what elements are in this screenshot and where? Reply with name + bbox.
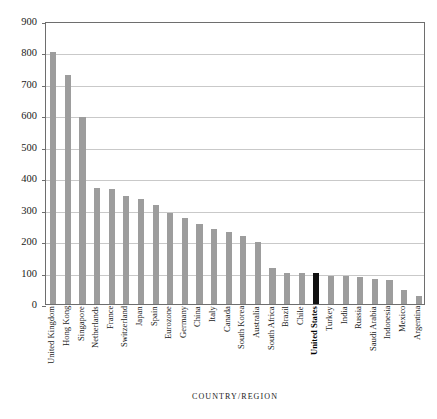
bar	[50, 52, 56, 304]
x-tick-label: Saudi Arabia	[369, 306, 378, 382]
x-tick-label: Mexico	[398, 306, 407, 382]
bar	[153, 205, 159, 304]
bar	[313, 273, 319, 304]
bar	[328, 276, 334, 304]
x-tick-label: France	[106, 306, 115, 382]
y-tick-label: 400	[0, 174, 37, 185]
x-tick-label: India	[340, 306, 349, 382]
y-axis-tick-labels: 0100200300400500600700800900	[0, 0, 40, 419]
bar-chart-figure: PERCENT OF GDP 0100200300400500600700800…	[0, 0, 437, 419]
x-tick-label: Spain	[150, 306, 159, 382]
bar	[226, 232, 232, 304]
y-tick-label: 600	[0, 111, 37, 122]
bar	[79, 117, 85, 304]
y-tick-label: 900	[0, 17, 37, 28]
bar	[343, 276, 349, 304]
x-tick-label: Singapore	[77, 306, 86, 382]
x-tick-label: Hong Kong	[62, 306, 71, 382]
x-tick-label: United States	[310, 306, 319, 382]
x-tick-label: China	[193, 306, 202, 382]
x-tick-label: Switzerland	[120, 306, 129, 382]
bar	[182, 218, 188, 304]
x-axis-title: COUNTRY/REGION	[45, 392, 425, 401]
y-tick-label: 700	[0, 80, 37, 91]
x-axis-tick-labels: United KingdomHong KongSingaporeNetherla…	[45, 306, 425, 384]
x-tick-label: Argentina	[413, 306, 422, 382]
y-tick-label: 800	[0, 48, 37, 59]
x-tick-label: Germany	[179, 306, 188, 382]
x-tick-label: South Africa	[267, 306, 276, 382]
bar	[401, 290, 407, 304]
bar	[357, 277, 363, 304]
y-tick-label: 0	[0, 300, 37, 311]
x-tick-label: Turkey	[325, 306, 334, 382]
bars-layer	[46, 23, 424, 304]
bar	[416, 296, 422, 304]
bar	[269, 268, 275, 304]
x-tick-label: Italy	[208, 306, 217, 382]
bar	[284, 273, 290, 304]
bar	[109, 189, 115, 304]
x-tick-label: Australia	[252, 306, 261, 382]
y-tick-label: 300	[0, 206, 37, 217]
bar	[211, 229, 217, 304]
bar	[386, 280, 392, 304]
x-tick-label: United Kingdom	[47, 306, 56, 382]
x-tick-label: South Korea	[237, 306, 246, 382]
bar	[299, 273, 305, 304]
x-tick-label: Indonesia	[383, 306, 392, 382]
bar	[123, 196, 129, 304]
bar	[94, 188, 100, 304]
y-tick-label: 500	[0, 143, 37, 154]
bar	[372, 279, 378, 304]
bar	[138, 199, 144, 304]
x-tick-label: Japan	[135, 306, 144, 382]
x-tick-label: Russia	[354, 306, 363, 382]
bar	[196, 224, 202, 304]
x-tick-label: Brazil	[281, 306, 290, 382]
x-tick-label: Canada	[223, 306, 232, 382]
bar	[240, 236, 246, 304]
plot-area	[45, 22, 425, 305]
y-tick-label: 100	[0, 269, 37, 280]
bar	[167, 213, 173, 304]
y-tick-label: 200	[0, 237, 37, 248]
bar	[255, 242, 261, 304]
x-tick-label: Netherlands	[91, 306, 100, 382]
bar	[65, 75, 71, 304]
x-tick-label: Chile	[296, 306, 305, 382]
x-tick-label: Eurozone	[164, 306, 173, 382]
